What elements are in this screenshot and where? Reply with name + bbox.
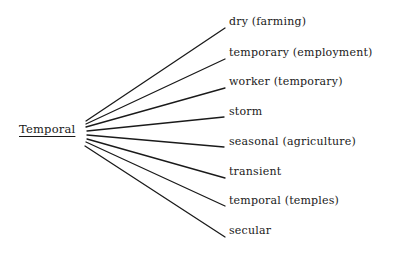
- branch-temporary-employment: temporary (employment): [229, 46, 373, 59]
- root-node: Temporal: [19, 122, 75, 136]
- branch-storm: storm: [229, 105, 262, 118]
- line-temporary: [86, 59, 225, 124]
- branch-seasonal-agriculture: seasonal (agriculture): [229, 135, 356, 148]
- line-temporal: [86, 142, 225, 206]
- branch-worker-temporary: worker (temporary): [229, 75, 343, 88]
- branch-dry-farming: dry (farming): [229, 15, 306, 28]
- branch-transient: transient: [229, 165, 281, 178]
- line-secular: [85, 146, 225, 237]
- branch-secular: secular: [229, 224, 271, 237]
- line-storm: [87, 117, 224, 131]
- branch-temporal-temples: temporal (temples): [229, 194, 339, 207]
